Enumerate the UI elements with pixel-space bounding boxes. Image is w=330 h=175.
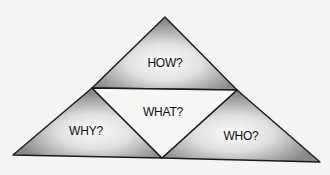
label-what: WHAT? bbox=[143, 105, 184, 119]
label-why: WHY? bbox=[69, 124, 103, 138]
top-triangle-how bbox=[92, 17, 237, 90]
question-pyramid-diagram: HOW? WHAT? WHY? WHO? bbox=[0, 0, 330, 175]
label-who: WHO? bbox=[223, 129, 259, 143]
label-how: HOW? bbox=[147, 56, 183, 70]
